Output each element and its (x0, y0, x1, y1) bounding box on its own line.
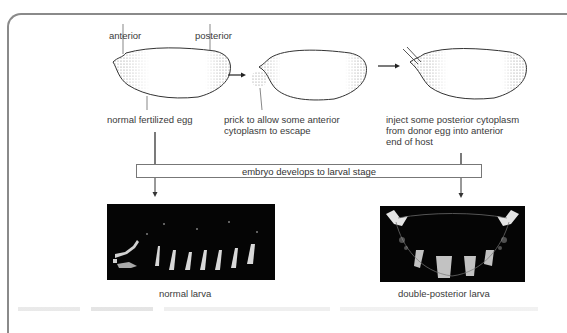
arrow-down-icon (459, 193, 464, 198)
caption-inject-line3: end of host (386, 136, 433, 147)
normal-larva-image (107, 204, 275, 280)
caption-inject-line1: inject some posterior cytoplasm (386, 114, 519, 125)
egg-pricked (251, 50, 370, 110)
stage-box-label: embryo develops to larval stage (242, 166, 376, 177)
caption-prick-line1: prick to allow some anterior (224, 114, 340, 125)
label-normal-larva: normal larva (159, 288, 211, 299)
figure-caption-cropped (18, 304, 538, 311)
label-double-posterior-larva: double-posterior larva (398, 288, 490, 299)
label-anterior: anterior (109, 30, 141, 41)
arrow-icon (378, 64, 400, 69)
arrow-icon (228, 73, 246, 78)
stage-box: embryo develops to larval stage (136, 164, 482, 178)
double-posterior-larva-image (380, 206, 525, 282)
egg-injected (403, 45, 532, 105)
arrow-down-icon (153, 192, 158, 197)
label-posterior: posterior (195, 30, 232, 41)
caption-inject-line2: from donor egg into anterior (386, 125, 503, 136)
escaped-cytoplasm (251, 71, 267, 87)
caption-prick-line2: cytoplasm to escape (224, 125, 311, 136)
caption-normal-egg: normal fertilized egg (107, 114, 193, 125)
